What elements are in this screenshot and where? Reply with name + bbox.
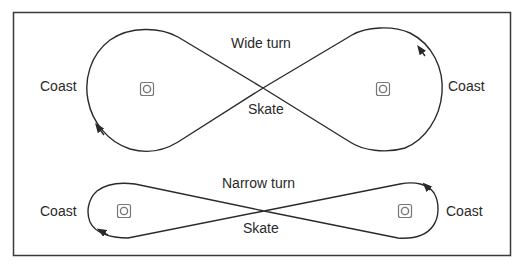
wide-right-marker-icon xyxy=(377,83,390,96)
diagram-stage: Wide turn Coast Coast Skate Narrow turn … xyxy=(0,0,521,267)
wide-left-coast-label: Coast xyxy=(40,79,77,93)
narrow-turn-title: Narrow turn xyxy=(222,176,295,190)
narrow-skate-label: Skate xyxy=(243,221,279,235)
wide-right-coast-label: Coast xyxy=(448,79,485,93)
wide-turn-title: Wide turn xyxy=(231,36,291,50)
narrow-right-coast-label: Coast xyxy=(446,204,483,218)
wide-left-marker-icon xyxy=(141,83,154,96)
wide-right-arrow-icon xyxy=(420,49,425,56)
narrow-left-marker-icon xyxy=(118,205,131,218)
narrow-right-marker-icon xyxy=(399,205,412,218)
narrow-left-coast-label: Coast xyxy=(40,204,77,218)
wide-skate-label: Skate xyxy=(248,102,284,116)
